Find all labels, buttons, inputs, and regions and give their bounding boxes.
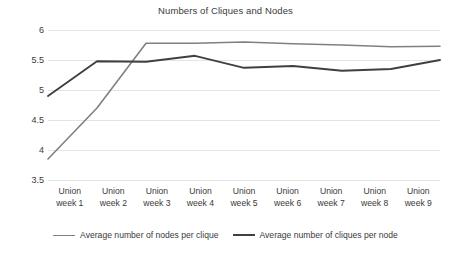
legend-line-icon	[233, 234, 255, 236]
x-axis-tick-label: Unionweek 1	[48, 186, 92, 220]
x-axis-tick-label: Unionweek 6	[266, 186, 310, 220]
chart-legend: Average number of nodes per cliqueAverag…	[0, 230, 451, 240]
y-axis-tick-label: 3.5	[4, 175, 44, 185]
x-axis-tick-label: Unionweek 7	[309, 186, 353, 220]
legend-label: Average number of cliques per node	[260, 230, 398, 240]
x-axis-tick-label: Unionweek 9	[397, 186, 441, 220]
y-axis-tick-label: 4	[4, 145, 44, 155]
chart-title: Numbers of Cliques and Nodes	[0, 5, 451, 16]
legend-line-icon	[53, 235, 75, 236]
x-axis-tick-label: Unionweek 5	[222, 186, 266, 220]
legend-label: Average number of nodes per clique	[80, 230, 218, 240]
y-axis-tick-label: 4.5	[4, 115, 44, 125]
chart-container: Numbers of Cliques and Nodes 3.544.555.5…	[0, 0, 451, 253]
y-axis-tick-label: 5	[4, 85, 44, 95]
x-axis-tick-label: Unionweek 3	[135, 186, 179, 220]
series-line	[48, 56, 440, 96]
y-axis-tick-labels: 3.544.555.56	[0, 30, 44, 180]
series-line	[48, 42, 440, 159]
plot-area	[48, 30, 440, 180]
x-axis-tick-label: Unionweek 4	[179, 186, 223, 220]
legend-item[interactable]: Average number of cliques per node	[233, 230, 398, 240]
x-axis-tick-label: Unionweek 8	[353, 186, 397, 220]
gridline	[48, 180, 440, 181]
y-axis-tick-label: 6	[4, 25, 44, 35]
x-axis-tick-label: Unionweek 2	[92, 186, 136, 220]
x-axis-tick-labels: Unionweek 1Unionweek 2Unionweek 3Unionwe…	[48, 186, 440, 220]
y-axis-tick-label: 5.5	[4, 55, 44, 65]
series-lines	[48, 30, 440, 180]
legend-item[interactable]: Average number of nodes per clique	[53, 230, 218, 240]
